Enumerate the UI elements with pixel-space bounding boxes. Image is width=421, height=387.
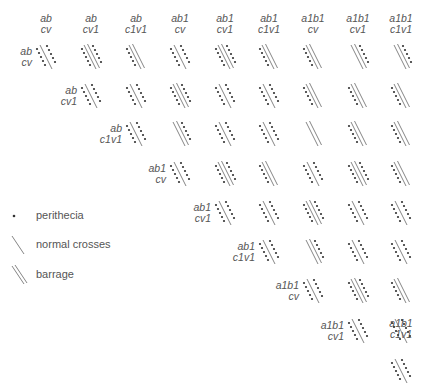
- barrage-cell: [256, 41, 282, 73]
- row-header: a1b1cv: [255, 280, 299, 302]
- barrage-cell: [300, 80, 326, 112]
- barrage-cell: [345, 275, 371, 307]
- normal-cross-cell: [256, 118, 282, 150]
- barrage-cell: [388, 41, 414, 73]
- normal-cross-cell: [167, 41, 193, 73]
- row-header: abc1v1: [78, 123, 122, 145]
- genotype-line2: c1v1: [247, 24, 291, 35]
- normal-cross-cell: [300, 275, 326, 307]
- legend-normal-label: normal crosses: [36, 238, 111, 250]
- normal-cross-cell: [212, 197, 238, 229]
- barrage-cell: [388, 118, 414, 150]
- barrage-cell: [345, 80, 371, 112]
- barrage-cell: [167, 80, 193, 112]
- genotype-line2: c1v1: [114, 24, 158, 35]
- barrage-cell: [212, 41, 238, 73]
- barrage-cell: [300, 41, 326, 73]
- normal-cross-cell: [167, 158, 193, 190]
- legend-perithecia: perithecia: [8, 206, 148, 232]
- normal-cross-cell: [345, 197, 371, 229]
- barrage-cell: [345, 118, 371, 150]
- normal-cross-cell: [388, 197, 414, 229]
- barrage-cell: [300, 197, 326, 229]
- row-header: ab1cv1: [167, 202, 211, 224]
- column-header: a1b1cv: [291, 13, 335, 35]
- genotype-line2: cv1: [203, 24, 247, 35]
- barrage-cell: [388, 158, 414, 190]
- column-header: abcv: [24, 13, 68, 35]
- column-header: a1b1c1v1: [379, 13, 421, 35]
- normal-cross-cell: [33, 41, 59, 73]
- barrage-cell: [345, 158, 371, 190]
- normal-cross-cell: [78, 80, 104, 112]
- row-header: abcv: [0, 46, 32, 68]
- normal-cross-cell: [256, 236, 282, 268]
- perithecia-dot-icon: [8, 206, 28, 226]
- barrage-cell: [212, 158, 238, 190]
- barrage-cell: [388, 80, 414, 112]
- genotype-line2: cv1: [69, 24, 113, 35]
- normal-cross-cell: [212, 118, 238, 150]
- genotype-line2: cv: [158, 24, 202, 35]
- normal-cross-cell: [212, 80, 238, 112]
- barrage-cell: [78, 41, 104, 73]
- barrage-cell: [300, 118, 326, 150]
- normal-cross-cell: [300, 158, 326, 190]
- genotype-line2: cv: [24, 24, 68, 35]
- column-header: abc1v1: [114, 13, 158, 35]
- barrage-double-line-icon: [8, 262, 32, 292]
- barrage-cell: [388, 275, 414, 307]
- legend-perithecia-label: perithecia: [36, 209, 84, 221]
- barrage-cell: [300, 236, 326, 268]
- row-header: ab1c1v1: [211, 241, 255, 263]
- barrage-cell: [345, 41, 371, 73]
- column-header: ab1cv: [158, 13, 202, 35]
- normal-cross-cell: [123, 80, 149, 112]
- barrage-cell: [167, 118, 193, 150]
- row-header: abcv1: [33, 85, 77, 107]
- column-header: ab1c1v1: [247, 13, 291, 35]
- normal-cross-cell: [256, 197, 282, 229]
- genotype-line2: c1v1: [379, 24, 421, 35]
- barrage-cell: [256, 158, 282, 190]
- column-header: a1b1cv1: [336, 13, 380, 35]
- genotype-line2: cv: [291, 24, 335, 35]
- normal-cross-cell: [256, 80, 282, 112]
- normal-cross-cell: [345, 236, 371, 268]
- genotype-line2: cv1: [336, 24, 380, 35]
- barrage-cell: [123, 41, 149, 73]
- column-header: ab1cv1: [203, 13, 247, 35]
- normal-cross-cell: [388, 355, 414, 387]
- row-header: a1b1cv1: [300, 320, 344, 342]
- normal-cross-cell: [345, 315, 371, 347]
- normal-cross-cell: [123, 118, 149, 150]
- legend-barrage-label: barrage: [36, 268, 74, 280]
- column-header: abcv1: [69, 13, 113, 35]
- legend-barrage: barrage: [8, 262, 148, 288]
- normal-cross-cell: [388, 236, 414, 268]
- normal-cross-cell: [388, 315, 414, 347]
- normal-cross-line-icon: [8, 232, 32, 262]
- row-header: ab1cv: [122, 163, 166, 185]
- legend-normal: normal crosses: [8, 232, 148, 258]
